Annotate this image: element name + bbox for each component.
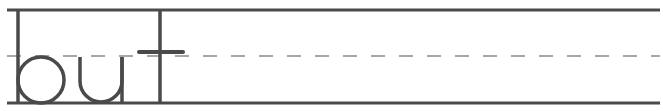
letter-b bbox=[18, 10, 64, 103]
handwriting-practice-sheet: but bbox=[0, 0, 663, 111]
writing-guide-canvas bbox=[0, 0, 663, 111]
letter-u bbox=[80, 57, 122, 103]
